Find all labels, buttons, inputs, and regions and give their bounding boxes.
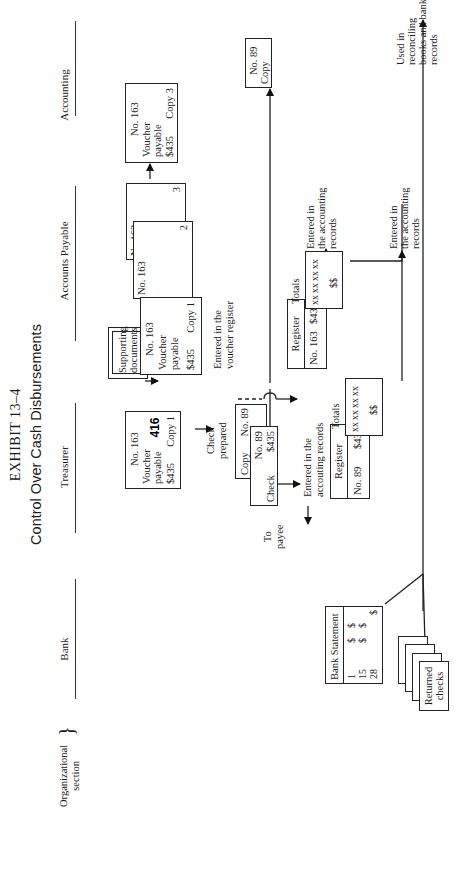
ap-totals-box: xx xx xx xx $$ [305,251,343,309]
entered-accounting-records-1-line3: records [327,187,338,249]
entered-accounting-treasurer-line2: accouting records [314,423,326,497]
accounting-check-copy-label: Copy [259,61,270,84]
entered-accounting-records-2-line1: Entered in [388,187,399,249]
ap-totals-label: Totals [290,278,301,304]
returned-checks-line2: checks [434,662,445,710]
treasurer-totals-row: xx [349,398,360,408]
ap-totals-row: xx [309,283,320,293]
supporting-docs-line1: Supporting [117,332,128,373]
ap-voucher-copy1: No. 163 Voucher payable $435 Copy 1 [140,297,202,375]
ap-voucher-copy3-number: 3 [171,187,182,192]
treasurer-check-label: Check [265,475,276,502]
bank-row-c1: $ [346,638,357,643]
returned-checks: Returned checks [419,661,449,711]
bank-row-day: 15 [357,669,368,679]
treasurer-totals-box: xx xx xx xx $$ [345,378,383,436]
ap-voucher-copy1-line2: payable [169,337,180,370]
to-payee-line1: To [262,525,274,549]
bank-row-c2: $ [346,623,357,628]
entered-accounting-records-treasurer: Entered in the accouting records [302,423,326,497]
entered-voucher-register-label: Entered in the voucher register [212,301,236,369]
check-register-title: Register [333,425,344,498]
accounting-check-copy: No. 89 Copy [245,38,272,88]
bank-statement: Bank Statement 1 $ $ 15 $ $ 28 $ [325,606,383,684]
ap-totals-row: xx [309,295,320,305]
check-prepared-line1: Check [205,422,217,459]
voucher-register-no: No. 163 [308,331,319,365]
auditor-used-in-label: Used in reconciling books and bank recor… [395,0,439,65]
treasurer-totals-label: Totals [330,403,341,429]
treasurer-voucher-line2: payable [152,451,163,484]
used-in-line1: Used in [395,0,406,65]
treasurer-check-no: No. 89 [253,431,264,460]
treasurer-voucher-no: No. 163 [129,432,140,466]
ap-voucher-copy2-no: No. 163 [136,261,147,295]
treasurer-voucher-copy: Copy 1 [165,416,176,447]
accounting-voucher-copy: Copy 3 [164,88,175,119]
treasurer-check-copy-label: Copy [239,452,250,475]
to-payee-line2: payee [274,525,286,549]
ap-voucher-copy1-line1: Voucher [157,335,168,370]
supporting-docs-line2: documents [128,332,139,373]
voucher-register-rule [304,300,305,368]
used-in-line2: reconciling [406,0,417,65]
entered-accounting-treasurer-line1: Entered in the [302,423,314,497]
bank-row-day: 28 [368,669,379,679]
returned-checks-line1: Returned [423,662,434,710]
treasurer-totals-sum: $$ [368,405,379,415]
voucher-register-title: Register [290,300,301,368]
treasurer-check-amount: $435 [265,431,276,452]
ap-voucher-copy1-copy: Copy 1 [185,302,196,333]
entered-voucher-register-line2: voucher register [224,301,236,369]
treasurer-totals-row: xx [349,410,360,420]
bank-statement-title: Bank Statement [329,613,340,680]
bank-statement-rule [343,607,344,683]
page-number: 416 [150,417,161,437]
accounting-voucher-no: No. 163 [129,102,140,136]
entered-accounting-records-2-line2: the accounting [399,187,410,249]
entered-accounting-records-1: Entered in the accounting records [305,187,338,249]
treasurer-voucher-amount: $435 [165,463,176,484]
check-prepared-label: Check prepared [205,422,229,459]
ap-totals-row: xx [309,259,320,269]
bank-row-day: 1 [346,674,357,679]
entered-accounting-records-1-line2: the accounting [316,187,327,249]
check-register-no: No. 89 [352,466,363,495]
ap-voucher-copy2-number: 2 [178,225,189,230]
bank-row-c1: $ [357,638,368,643]
rotated-page: EXHIBIT 13–4 Control Over Cash Disbursem… [0,0,469,869]
ap-voucher-copy1-amount: $435 [185,349,196,370]
voucher-register: Register No. 163 $435 [287,299,327,369]
accounting-voucher-line1: Voucher [141,122,152,157]
treasurer-check-copy-no: No. 89 [239,408,250,437]
treasurer-totals-row: xx [349,422,360,432]
treasurer-totals-row: xx [349,386,360,396]
entered-voucher-register-line1: Entered in the [212,301,224,369]
treasurer-voucher-line1: Voucher [141,449,152,484]
accounting-voucher-amount: $435 [164,136,175,157]
entered-accounting-records-2: Entered in the accounting records [388,187,421,249]
accounting-check-copy-no: No. 89 [248,46,259,75]
ap-totals-sum: $$ [328,278,339,288]
accounting-voucher-line2: payable [152,124,163,157]
bank-row-c2: $ [357,623,368,628]
bank-row-c2: $ [368,610,379,615]
ap-totals-row: xx [309,271,320,281]
ap-voucher-copy1-no: No. 163 [144,322,155,356]
to-payee-label: To payee [262,525,286,549]
used-in-line3: books and bank [417,0,428,65]
check-prepared-line2: prepared [217,422,229,459]
treasurer-check: No. 89 Check $435 [250,426,278,506]
used-in-line4: records [428,0,439,65]
entered-accounting-records-2-line3: records [410,187,421,249]
accounting-voucher-copy3: No. 163 Voucher payable $435 Copy 3 [125,83,178,163]
ap-voucher-copy2: No. 163 2 [133,221,193,299]
entered-accounting-records-1-line1: Entered in [305,187,316,249]
